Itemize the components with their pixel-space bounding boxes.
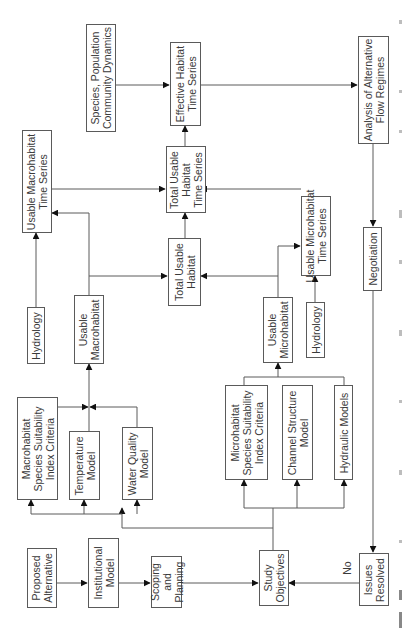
analysis-flow-regimes-label: Analysis of Alternative Flow Regimes	[362, 39, 386, 142]
total-usable-habitat-label: Total Usable Habitat	[173, 243, 197, 301]
usable-macrohabitat-label: Usable Macrohabitat	[77, 299, 101, 360]
issues-resolved-label: Issues Resolved	[362, 558, 386, 602]
macrohabitat-ssi-box: Macrohabitat Species Suitability Index C…	[17, 397, 58, 500]
usable-macrohabitat-box: Usable Macrohabitat	[74, 295, 104, 364]
hydrology-micro-label: Hydrology	[310, 306, 322, 353]
macrohabitat-ssi-label: Macrohabitat Species Suitability Index C…	[20, 406, 56, 491]
water-quality-model-box: Water Quality Model	[122, 427, 153, 500]
study-objectives-label: Study Objectives	[262, 553, 286, 602]
channel-structure-model-box: Channel Structure Model	[282, 385, 313, 480]
temperature-model-box: Temperature Model	[69, 431, 100, 500]
temperature-model-label: Temperature Model	[73, 436, 97, 495]
usable-macrohabitat-ts-label: Usable Macrohabitat Time Series	[25, 133, 49, 229]
total-usable-habitat-ts-box: Total Usable Habitat Time Series	[166, 146, 206, 213]
hydrology-macro-box: Hydrology	[27, 307, 45, 364]
scoping-planning-label: Scoping and Planning	[149, 562, 185, 603]
effective-habitat-ts-box: Effective Habitat Time Series	[170, 42, 201, 126]
usable-microhabitat-ts-label: Usable Microhabitat Time Series	[304, 190, 328, 283]
ifim-flow-diagram: Proposed Alternative Institutional Model…	[0, 0, 406, 642]
total-usable-habitat-ts-label: Total Usable Habitat Time Series	[168, 151, 204, 209]
hydraulic-models-box: Hydraulic Models	[334, 385, 353, 480]
hydrology-micro-box: Hydrology	[306, 302, 325, 358]
water-quality-model-label: Water Quality Model	[126, 432, 150, 495]
channel-structure-model-label: Channel Structure Model	[286, 390, 310, 475]
negotiation-box: Negotiation	[363, 227, 382, 291]
institutional-model-label: Institutional Model	[92, 546, 116, 599]
hydrology-macro-label: Hydrology	[30, 312, 42, 359]
species-population-box: Species, Population Community Dynamics	[86, 24, 116, 132]
scoping-planning-box: Scoping and Planning	[151, 556, 182, 608]
species-population-label: Species, Population Community Dynamics	[89, 27, 113, 129]
figure-caption-strip	[398, 0, 404, 642]
study-objectives-box: Study Objectives	[259, 550, 289, 606]
microhabitat-ssi-box: Microhabitat Species Suitability Index C…	[225, 385, 268, 480]
usable-microhabitat-label: Usable Microhabitat	[266, 301, 290, 358]
total-usable-habitat-box: Total Usable Habitat	[168, 238, 201, 306]
usable-microhabitat-ts-box: Usable Microhabitat Time Series	[301, 196, 331, 276]
institutional-model-box: Institutional Model	[88, 538, 119, 608]
issues-resolved-box: Issues Resolved	[359, 553, 389, 606]
usable-microhabitat-box: Usable Microhabitat	[263, 297, 293, 363]
usable-macrohabitat-ts-box: Usable Macrohabitat Time Series	[22, 130, 52, 233]
proposed-alternative-box: Proposed Alternative	[27, 548, 57, 608]
microhabitat-ssi-label: Microhabitat Species Suitability Index C…	[229, 390, 265, 475]
effective-habitat-ts-label: Effective Habitat Time Series	[174, 46, 198, 122]
hydraulic-models-label: Hydraulic Models	[338, 392, 350, 473]
proposed-alternative-label: Proposed Alternative	[30, 553, 54, 603]
negotiation-label: Negotiation	[367, 232, 379, 285]
no-label: No	[341, 561, 353, 574]
connector-lines	[0, 0, 406, 642]
analysis-flow-regimes-box: Analysis of Alternative Flow Regimes	[358, 36, 389, 144]
